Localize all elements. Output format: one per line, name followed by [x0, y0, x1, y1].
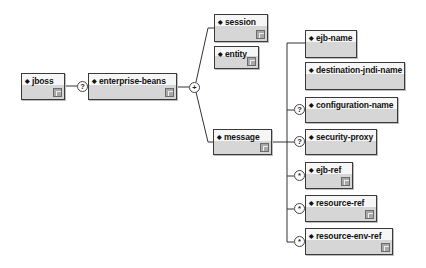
node-label: session	[218, 17, 256, 27]
node-label: security-proxy	[309, 132, 373, 142]
node-label: destination-jndi-name	[309, 65, 402, 75]
node-enterprise-beans[interactable]: enterprise-beans	[88, 73, 177, 100]
reference-icon[interactable]	[365, 210, 374, 219]
optional-connector-icon: ?	[294, 104, 305, 115]
node-entity[interactable]: entity	[214, 46, 259, 69]
repeat-connector-icon: *	[294, 170, 305, 181]
node-label: jboss	[25, 76, 54, 86]
choice-connector-icon: +	[189, 82, 200, 93]
optional-connector-icon: ?	[294, 136, 305, 147]
node-label: resource-ref	[309, 198, 364, 208]
node-label: message	[217, 132, 260, 142]
repeat-connector-icon: *	[294, 236, 305, 247]
node-label: ejb-name	[309, 33, 352, 43]
node-resource-ref[interactable]: resource-ref	[305, 195, 377, 222]
node-destination-jndi-name[interactable]: destination-jndi-name	[305, 62, 405, 90]
node-ejb-ref[interactable]: ejb-ref	[305, 162, 353, 189]
node-label: ejb-ref	[309, 165, 341, 175]
node-session[interactable]: session	[214, 14, 268, 42]
reference-icon[interactable]	[53, 88, 62, 97]
node-configuration-name[interactable]: configuration-name	[305, 97, 398, 123]
node-label: entity	[218, 49, 247, 59]
node-message[interactable]: message	[213, 129, 272, 155]
reference-icon[interactable]	[381, 243, 390, 252]
optional-connector-icon: ?	[77, 81, 88, 92]
reference-icon[interactable]	[341, 177, 350, 186]
node-label: resource-env-ref	[309, 231, 381, 241]
reference-icon[interactable]	[256, 30, 265, 39]
node-resource-env-ref[interactable]: resource-env-ref	[305, 228, 393, 255]
reference-icon[interactable]	[165, 88, 174, 97]
node-ejb-name[interactable]: ejb-name	[305, 30, 357, 58]
schema-diagram: jboss ? enterprise-beans + session entit…	[0, 0, 426, 268]
repeat-connector-icon: *	[294, 203, 305, 214]
node-label: enterprise-beans	[92, 76, 166, 86]
node-label: configuration-name	[309, 100, 393, 110]
reference-icon[interactable]	[247, 57, 256, 66]
node-jboss[interactable]: jboss	[21, 73, 65, 100]
node-security-proxy[interactable]: security-proxy	[305, 129, 377, 155]
reference-icon[interactable]	[260, 143, 269, 152]
